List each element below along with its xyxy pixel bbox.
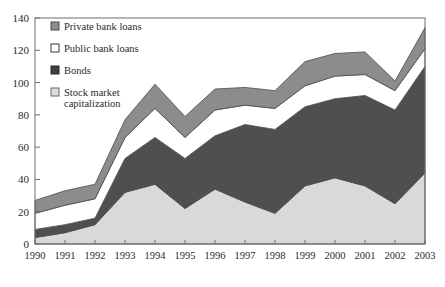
legend-swatch	[51, 44, 59, 52]
x-tick-label: 1998	[265, 250, 286, 261]
x-tick-label: 1999	[295, 250, 316, 261]
x-tick-label: 1997	[235, 250, 256, 261]
legend-label: capitalization	[64, 98, 121, 109]
chart-svg: 020406080100120140 199019911992199319941…	[0, 0, 445, 287]
x-tick-label: 2001	[355, 250, 376, 261]
y-tick-label: 40	[18, 173, 30, 185]
y-tick-label: 100	[13, 77, 30, 89]
x-tick-label: 1996	[205, 250, 226, 261]
legend-swatch	[51, 66, 59, 74]
x-tick-label: 1995	[175, 250, 196, 261]
stacked-area-chart: 020406080100120140 199019911992199319941…	[0, 0, 445, 287]
x-tick-label: 2002	[385, 250, 406, 261]
x-tick-label: 1990	[25, 250, 46, 261]
x-tick-label: 1992	[85, 250, 106, 261]
x-tick-label: 1991	[55, 250, 76, 261]
y-tick-label: 60	[18, 141, 30, 153]
y-tick-label: 20	[18, 206, 30, 218]
y-tick-label: 120	[13, 44, 30, 56]
legend-label: Stock market	[64, 87, 120, 98]
y-tick-label: 140	[13, 12, 30, 24]
y-tick-label: 0	[24, 238, 30, 250]
x-tick-label: 2003	[415, 250, 436, 261]
x-tick-label: 1994	[145, 250, 167, 261]
legend-label: Bonds	[64, 65, 91, 76]
legend-label: Private bank loans	[64, 21, 142, 32]
x-tick-label: 1993	[115, 250, 136, 261]
x-tick-label: 2000	[325, 250, 346, 261]
y-tick-label: 80	[18, 109, 30, 121]
legend-swatch	[51, 22, 59, 30]
legend-swatch	[51, 88, 59, 96]
legend-label: Public bank loans	[64, 43, 139, 54]
